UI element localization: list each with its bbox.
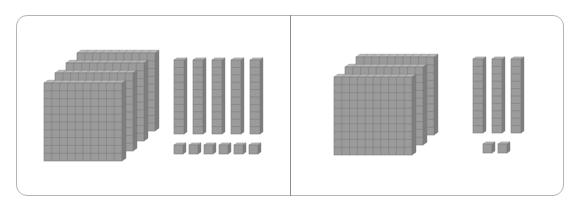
tens-rod <box>473 57 486 133</box>
ones-cube <box>249 143 261 154</box>
tens-rod <box>212 58 225 134</box>
tens-rod <box>193 58 206 134</box>
tens-rod <box>231 58 244 134</box>
hundreds-flat <box>334 74 416 155</box>
tens-rod <box>492 57 505 133</box>
tens-rod <box>174 58 187 134</box>
ones-cube <box>204 143 216 154</box>
ones-cube <box>219 143 231 154</box>
ones-cube <box>234 143 246 154</box>
base-ten-blocks-canvas <box>0 0 577 208</box>
ones-cube <box>483 142 495 153</box>
left-panel-blocks <box>44 50 263 161</box>
tens-rod <box>250 58 263 134</box>
ones-cube <box>174 143 186 154</box>
hundreds-flat <box>44 80 126 161</box>
ones-cube <box>189 143 201 154</box>
tens-rod <box>511 57 524 133</box>
right-panel-blocks <box>334 54 524 155</box>
ones-cube <box>498 142 510 153</box>
